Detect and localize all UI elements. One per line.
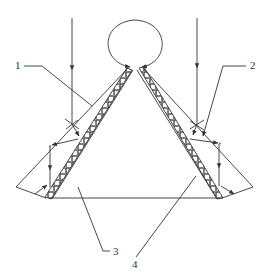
leader-3	[78, 187, 110, 251]
leader-2	[203, 66, 246, 136]
right-plate	[139, 67, 223, 199]
diagram-drawing	[0, 0, 270, 280]
leader-4	[136, 176, 196, 257]
label-2: 2	[250, 60, 256, 71]
patent-diagram: 1 2 3 4	[0, 0, 270, 280]
leader-1	[24, 66, 92, 106]
left-plate	[45, 68, 132, 199]
label-3: 3	[113, 246, 119, 257]
label-1: 1	[15, 60, 21, 71]
label-4: 4	[132, 259, 138, 270]
feedback-loop	[108, 20, 162, 67]
